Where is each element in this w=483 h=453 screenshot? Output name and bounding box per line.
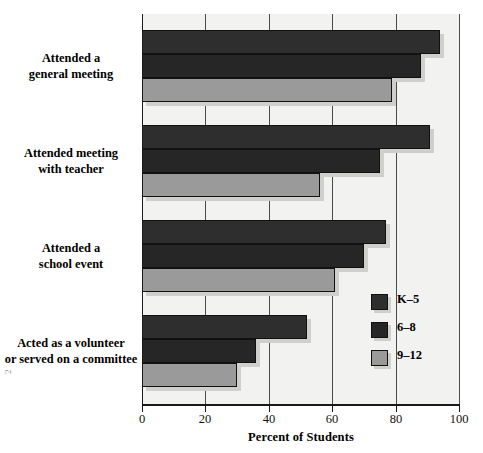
- y-axis-line: [142, 14, 143, 405]
- x-tick-label-40: 40: [249, 412, 289, 427]
- bar-68-group3: [142, 244, 364, 268]
- bar-68-group4: [142, 339, 256, 363]
- category-label-3: Attended aschool event: [2, 240, 140, 272]
- x-tick-label-100: 100: [439, 412, 479, 427]
- category-label-line: with teacher: [2, 161, 140, 177]
- category-label-line: Attended a: [2, 50, 140, 66]
- legend-swatch-icon: [371, 322, 388, 338]
- x-tick-label-80: 80: [376, 412, 416, 427]
- gridline-100: [459, 14, 460, 405]
- x-axis-line: [142, 404, 460, 406]
- bar-912-group2: [142, 173, 320, 197]
- figure-bar-chart: 020406080100 Percent of Students Attende…: [0, 0, 483, 453]
- bar-K5-group2: [142, 125, 430, 149]
- x-tick-label-60: 60: [312, 412, 352, 427]
- legend-label: 9–12: [397, 348, 422, 363]
- bar-912-group4: [142, 363, 237, 387]
- category-label-2: Attended meetingwith teacher: [2, 145, 140, 177]
- bar-912-group3: [142, 268, 335, 292]
- category-label-line: Attended meeting: [2, 145, 140, 161]
- bar-K5-group1: [142, 30, 440, 54]
- category-label-line: school event: [2, 256, 140, 272]
- bar-912-group1: [142, 78, 392, 102]
- bar-K5-group4: [142, 315, 307, 339]
- bar-K5-group3: [142, 220, 386, 244]
- x-tick-label-20: 20: [185, 412, 225, 427]
- category-label-line: Attended a: [2, 240, 140, 256]
- legend-swatch-icon: [371, 350, 388, 366]
- bar-68-group1: [142, 54, 421, 78]
- legend-label: 6–8: [397, 320, 416, 335]
- legend-swatch-icon: [371, 294, 388, 310]
- category-label-1: Attended ageneral meeting: [2, 50, 140, 82]
- category-label-line: or served on a committee: [2, 351, 140, 367]
- page-edge-mark: 2: [3, 370, 13, 375]
- category-label-line: Acted as a volunteer: [2, 335, 140, 351]
- x-tick-label-0: 0: [122, 412, 162, 427]
- legend-label: K–5: [397, 292, 419, 307]
- category-label-line: general meeting: [2, 66, 140, 82]
- bar-68-group2: [142, 149, 380, 173]
- category-label-4: Acted as a volunteeror served on a commi…: [2, 335, 140, 367]
- x-axis-label: Percent of Students: [142, 430, 460, 445]
